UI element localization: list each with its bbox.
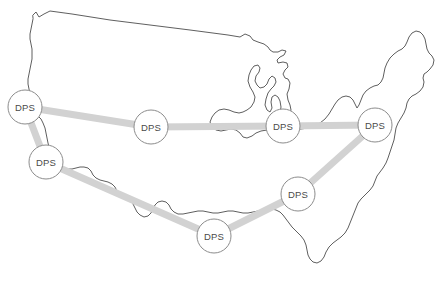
node-dps-north-central[interactable]: DPS [134,110,168,144]
node-dps-south-central[interactable]: DPS [197,219,231,253]
node-dps-west[interactable]: DPS [29,145,63,179]
dps-midwest-east-label: DPS [273,121,293,132]
node-dps-northeast[interactable]: DPS [358,108,392,142]
dps-south-central-label: DPS [204,231,224,242]
node-dps-northwest[interactable]: DPS [8,90,42,124]
node-dps-southeast[interactable]: DPS [281,177,315,211]
dps-north-central-label: DPS [141,122,161,133]
dps-northwest-label: DPS [15,102,35,113]
dps-northeast-label: DPS [365,120,385,131]
dps-west-label: DPS [36,157,56,168]
link-north-central-midwest [151,126,283,127]
dps-network-map-figure: DPSDPSDPSDPSDPSDPSDPS [0,0,443,292]
dps-southeast-label: DPS [288,189,308,200]
node-dps-midwest-east[interactable]: DPS [266,109,300,143]
map-canvas: DPSDPSDPSDPSDPSDPSDPS [0,0,443,292]
